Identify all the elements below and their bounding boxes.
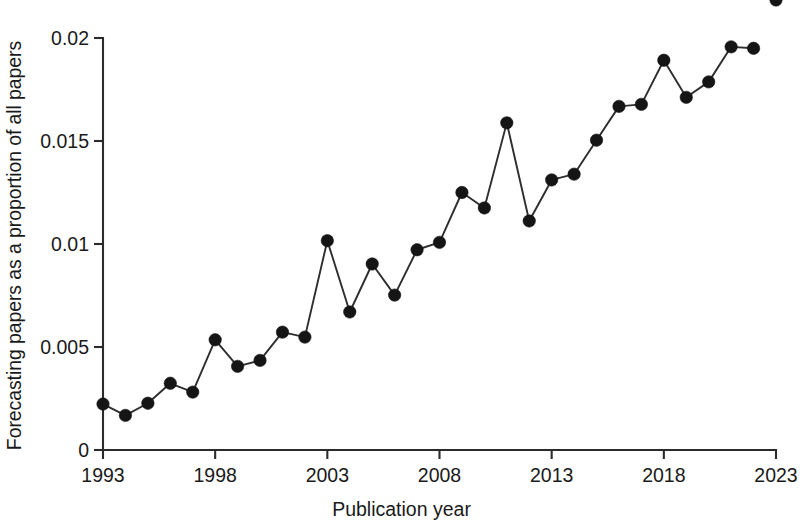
- data-point-marker: [231, 360, 243, 372]
- forecasting-papers-line-chart: Forecasting papers as a proportion of al…: [0, 0, 803, 528]
- plot-area: 00.0050.010.0150.02199319982003200820132…: [0, 0, 803, 528]
- data-point-marker: [703, 76, 715, 88]
- data-point-marker: [119, 409, 131, 421]
- x-tick-label: 2013: [530, 464, 573, 486]
- data-point-marker: [523, 215, 535, 227]
- data-point-marker: [411, 244, 423, 256]
- data-point-marker: [187, 386, 199, 398]
- x-tick-label: 2018: [642, 464, 685, 486]
- data-point-marker: [680, 91, 692, 103]
- y-tick-label: 0.015: [40, 130, 89, 152]
- data-point-marker: [366, 258, 378, 270]
- data-point-marker: [456, 186, 468, 198]
- data-point-marker: [164, 377, 176, 389]
- y-tick-label: 0: [78, 439, 89, 461]
- data-point-marker: [635, 98, 647, 110]
- x-axis-title: Publication year: [0, 498, 803, 521]
- data-point-marker: [725, 41, 737, 53]
- data-point-marker: [254, 354, 266, 366]
- data-point-marker: [747, 42, 759, 54]
- x-tick-label: 2023: [754, 464, 797, 486]
- data-point-marker: [299, 331, 311, 343]
- data-point-marker: [344, 306, 356, 318]
- x-tick-label: 1993: [81, 464, 124, 486]
- series-line-forecasting-proportion: [103, 47, 754, 416]
- data-point-marker: [501, 117, 513, 129]
- x-tick-label: 2008: [418, 464, 461, 486]
- data-point-marker: [568, 168, 580, 180]
- data-point-marker: [658, 54, 670, 66]
- data-point-marker: [613, 100, 625, 112]
- data-point-marker: [388, 289, 400, 301]
- data-point-marker: [478, 202, 490, 214]
- x-tick-label: 2003: [306, 464, 349, 486]
- data-point-marker: [142, 397, 154, 409]
- data-point-marker: [433, 236, 445, 248]
- y-tick-label: 0.02: [51, 27, 89, 49]
- data-point-marker: [97, 398, 109, 410]
- y-tick-label: 0.005: [40, 336, 89, 358]
- data-point-marker: [545, 174, 557, 186]
- y-tick-label: 0.01: [51, 233, 89, 255]
- data-point-marker: [321, 235, 333, 247]
- data-point-marker: [209, 334, 221, 346]
- data-point-marker: [770, 0, 782, 6]
- data-point-marker: [590, 134, 602, 146]
- x-tick-label: 1998: [193, 464, 236, 486]
- data-point-marker: [276, 326, 288, 338]
